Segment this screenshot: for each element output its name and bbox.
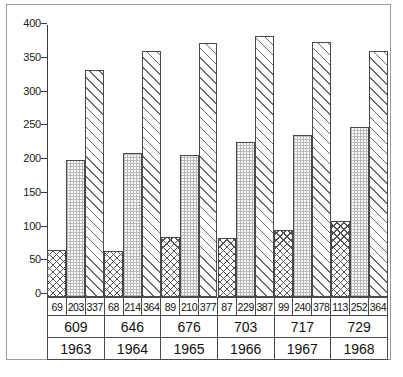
bar-1965-series-3 [199, 43, 218, 297]
cell-year: 1964 [104, 338, 161, 360]
cell-year: 1966 [217, 338, 274, 360]
y-axis-tick [41, 259, 47, 260]
bar-1966-series-3 [255, 36, 274, 297]
y-axis-tick [41, 192, 47, 193]
cell-year: 1967 [274, 338, 331, 360]
cell-value: 113 [331, 298, 350, 316]
cell-total: 609 [48, 316, 105, 338]
cell-value: 387 [255, 298, 274, 316]
y-axis-tick [41, 158, 47, 159]
bar-1966-series-1 [218, 238, 237, 297]
cell-value: 203 [66, 298, 85, 316]
cell-value: 364 [368, 298, 387, 316]
cell-value: 214 [123, 298, 142, 316]
cell-year: 1963 [48, 338, 105, 360]
bar-1963-series-1 [47, 250, 66, 297]
cell-value: 377 [199, 298, 218, 316]
cell-value: 240 [293, 298, 312, 316]
bar-1967-series-3 [312, 42, 331, 297]
table-row-values: 6920333768214364892103778722938799240378… [48, 298, 388, 316]
plot-area [47, 27, 388, 297]
cell-value: 364 [142, 298, 161, 316]
bar-1963-series-3 [85, 70, 104, 297]
y-axis-tick-label: 200 [9, 153, 41, 164]
bar-1964-series-3 [142, 51, 161, 297]
cell-value: 210 [180, 298, 199, 316]
cell-value: 87 [217, 298, 236, 316]
cell-total: 703 [217, 316, 274, 338]
y-axis-tick-label: 50 [9, 254, 41, 265]
cell-year: 1968 [331, 338, 388, 360]
cell-value: 337 [85, 298, 104, 316]
cell-total: 676 [161, 316, 218, 338]
y-axis-tick [41, 91, 47, 92]
y-axis-tick [41, 293, 47, 294]
bar-1965-series-1 [161, 237, 180, 297]
bar-1964-series-2 [123, 153, 142, 297]
cell-total: 717 [274, 316, 331, 338]
table-row-years: 196319641965196619671968 [48, 338, 388, 360]
cell-year: 1965 [161, 338, 218, 360]
cell-value: 99 [274, 298, 293, 316]
data-table: 6920333768214364892103778722938799240378… [47, 297, 388, 360]
y-axis-tick [41, 124, 47, 125]
y-axis-tick [41, 226, 47, 227]
y-axis-tick-label: 100 [9, 220, 41, 231]
chart-frame: 050100150200250300350400 692033376821436… [6, 4, 391, 360]
bar-1967-series-2 [293, 135, 312, 297]
cell-value: 68 [104, 298, 123, 316]
y-axis-labels: 050100150200250300350400 [7, 5, 41, 377]
bar-1967-series-1 [274, 230, 293, 297]
y-axis-tick [41, 23, 47, 24]
cell-total: 646 [104, 316, 161, 338]
y-axis-tick-label: 0 [9, 288, 41, 299]
cell-total: 729 [331, 316, 388, 338]
y-axis-tick-label: 250 [9, 119, 41, 130]
cell-value: 89 [161, 298, 180, 316]
bar-1965-series-2 [180, 155, 199, 297]
y-axis-tick-label: 300 [9, 85, 41, 96]
cell-value: 69 [48, 298, 67, 316]
bar-1966-series-2 [236, 142, 255, 297]
bar-1968-series-3 [369, 51, 388, 297]
bar-1963-series-2 [66, 160, 85, 297]
bar-1968-series-1 [331, 221, 350, 297]
bar-1968-series-2 [350, 127, 369, 297]
cell-value: 252 [350, 298, 369, 316]
cell-value: 378 [312, 298, 331, 316]
y-axis-tick-label: 400 [9, 18, 41, 29]
y-axis-tick [41, 57, 47, 58]
bar-1964-series-1 [104, 251, 123, 297]
table-row-totals: 609646676703717729 [48, 316, 388, 338]
cell-value: 229 [236, 298, 255, 316]
y-axis-tick-label: 150 [9, 186, 41, 197]
y-axis-tick-label: 350 [9, 51, 41, 62]
